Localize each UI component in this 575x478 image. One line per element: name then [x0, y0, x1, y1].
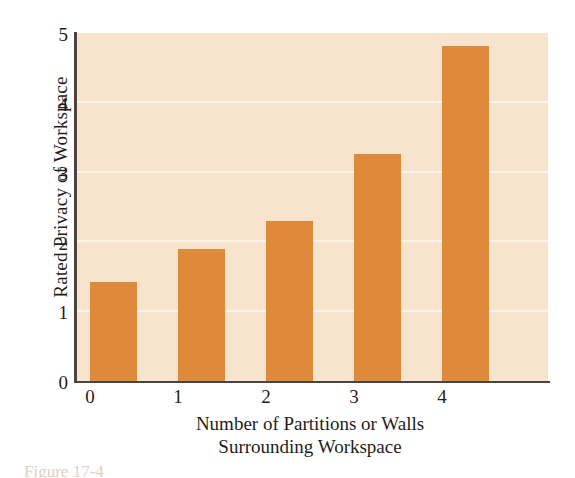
x-tick-0: 0 — [70, 387, 110, 407]
bar-chart-figure: Rated Privacy of Workspace 0 1 2 3 4 5 0… — [0, 0, 575, 478]
plot-inner — [76, 33, 548, 382]
y-tick-0: 0 — [34, 373, 68, 392]
y-tick-3: 3 — [34, 164, 68, 183]
bar-3 — [354, 154, 401, 382]
x-axis-title: Number of Partitions or Walls Surroundin… — [60, 412, 560, 458]
y-axis-line — [74, 32, 77, 383]
bar-2 — [266, 221, 313, 382]
x-axis-title-line2: Surrounding Workspace — [60, 435, 560, 458]
bar-4 — [442, 46, 489, 382]
bar-0 — [90, 282, 137, 383]
plot-area — [76, 33, 548, 382]
x-tick-1: 1 — [158, 387, 198, 407]
x-axis-line — [74, 381, 550, 383]
y-tick-5: 5 — [34, 25, 68, 44]
bar-1 — [178, 249, 225, 382]
x-tick-2: 2 — [246, 387, 286, 407]
x-tick-3: 3 — [334, 387, 374, 407]
y-tick-4: 4 — [34, 95, 68, 114]
y-tick-2: 2 — [34, 234, 68, 253]
y-tick-1: 1 — [34, 303, 68, 322]
figure-caption: Figure 17-4 — [24, 462, 444, 478]
x-tick-4: 4 — [422, 387, 462, 407]
x-axis-title-line1: Number of Partitions or Walls — [60, 412, 560, 435]
